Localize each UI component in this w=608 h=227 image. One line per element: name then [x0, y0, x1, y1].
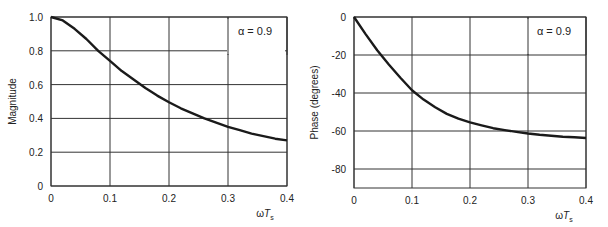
y-tick-label: 0.8: [29, 46, 43, 57]
bode-plots: 00.10.20.30.400.20.40.60.81.0α = 0.9ωTsM…: [0, 0, 608, 227]
x-tick-label: 0: [48, 193, 54, 204]
y-tick-label: -40: [332, 88, 347, 99]
y-tick-label: 0: [37, 181, 43, 192]
y-axis-label: Phase (degrees): [309, 66, 320, 140]
y-tick-label: 0: [340, 12, 346, 23]
x-axis-label: ωTs: [555, 210, 573, 223]
phase-chart: 00.10.20.30.40-20-40-60-80α = 0.9ωTsPhas…: [309, 12, 593, 223]
x-tick-label: 0.2: [162, 193, 176, 204]
x-tick-label: 0.4: [579, 195, 593, 206]
alpha-annotation: α = 0.9: [238, 25, 272, 37]
x-tick-label: 0.2: [463, 195, 477, 206]
x-tick-label: 0.3: [521, 195, 535, 206]
y-tick-label: 0.2: [29, 147, 43, 158]
x-tick-label: 0.1: [103, 193, 117, 204]
y-tick-label: -20: [332, 50, 347, 61]
y-tick-label: -60: [332, 126, 347, 137]
x-tick-label: 0: [351, 195, 357, 206]
y-axis-label: Magnitude: [7, 78, 18, 125]
magnitude-chart: 00.10.20.30.400.20.40.60.81.0α = 0.9ωTsM…: [7, 12, 294, 221]
x-axis-label: ωTs: [256, 208, 274, 221]
y-tick-label: 0.4: [29, 113, 43, 124]
alpha-annotation: α = 0.9: [537, 25, 571, 37]
y-tick-label: -80: [332, 164, 347, 175]
x-tick-label: 0.1: [405, 195, 419, 206]
y-tick-label: 1.0: [29, 12, 43, 23]
x-tick-label: 0.4: [280, 193, 294, 204]
y-tick-label: 0.6: [29, 80, 43, 91]
x-tick-label: 0.3: [221, 193, 235, 204]
